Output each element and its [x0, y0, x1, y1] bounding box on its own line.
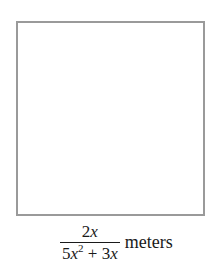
- denominator-term2-variable: x: [110, 244, 118, 263]
- side-length-fraction: 2x 5x2 + 3x: [60, 222, 120, 263]
- denominator-term1-variable: x: [71, 244, 79, 263]
- numerator-variable: x: [90, 222, 98, 241]
- denominator-operator: +: [84, 244, 102, 263]
- denominator-term1-coefficient: 5: [62, 244, 71, 263]
- denominator-term2-coefficient: 3: [102, 244, 111, 263]
- square-figure: [16, 21, 205, 216]
- side-length-label: 2x 5x2 + 3x meters: [60, 222, 173, 263]
- unit-label: meters: [125, 232, 173, 253]
- fraction-denominator: 5x2 + 3x: [60, 244, 120, 263]
- fraction-numerator: 2x: [80, 222, 100, 241]
